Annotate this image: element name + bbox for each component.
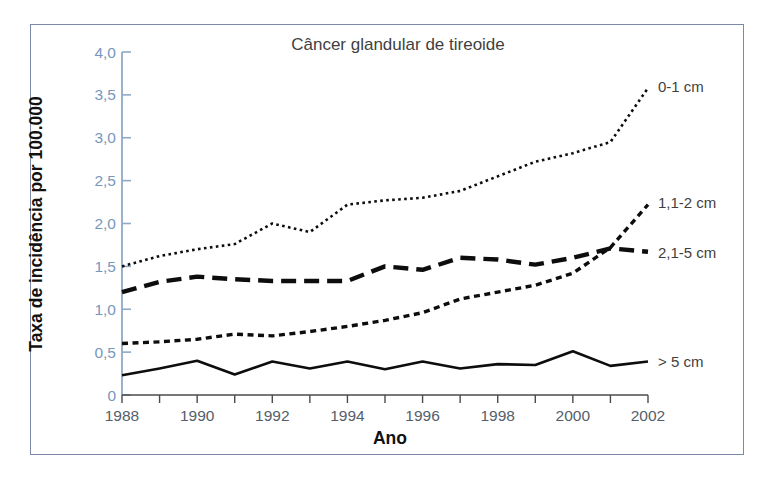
data-series-group [122, 88, 648, 375]
x-axis-tick-label: 1990 [180, 407, 215, 424]
x-axis-tick-label: 2002 [631, 407, 665, 424]
series-label-1: 0-1 cm [658, 78, 704, 95]
x-axis-tick-label: 1988 [105, 407, 139, 424]
x-axis-ticks [122, 395, 648, 403]
chart-canvas: Câncer glandular de tireoide Taxa de inc… [0, 0, 766, 483]
series-line-2 [122, 205, 648, 344]
y-axis-tick-label: 4,0 [94, 44, 116, 61]
series-line-1 [122, 88, 648, 266]
series-line-3 [122, 248, 648, 292]
y-axis-tick-label: 0 [107, 387, 116, 404]
x-axis-tick-label: 1992 [255, 407, 289, 424]
y-axis-tick-labels: 00,51,01,52,02,53,03,54,0 [94, 44, 116, 404]
y-axis-title: Taxa de incidência por 100.000 [26, 96, 46, 352]
x-axis-tick-labels: 19881990199219941996199820002002 [105, 407, 665, 424]
y-axis-tick-label: 1,0 [94, 301, 116, 318]
x-axis-tick-label: 1998 [480, 407, 514, 424]
series-label-4: > 5 cm [658, 353, 703, 370]
x-axis-tick-label: 1996 [405, 407, 439, 424]
chart-title: Câncer glandular de tireoide [291, 35, 505, 54]
series-labels-group: 0-1 cm1,1-2 cm2,1-5 cm> 5 cm [658, 78, 716, 370]
chart-svg: Câncer glandular de tireoide Taxa de inc… [0, 0, 766, 483]
y-axis-tick-label: 3,0 [94, 129, 116, 146]
y-axis-tick-label: 1,5 [94, 258, 116, 275]
y-axis-tick-label: 2,5 [94, 172, 116, 189]
x-axis-tick-label: 2000 [556, 407, 591, 424]
series-label-3: 2,1-5 cm [658, 244, 716, 261]
series-label-2: 1,1-2 cm [658, 194, 716, 211]
y-axis-tick-label: 0,5 [94, 344, 116, 361]
x-axis-title: Ano [373, 428, 407, 448]
y-axis-tick-label: 2,0 [94, 215, 116, 232]
y-axis-tick-label: 3,5 [94, 86, 116, 103]
x-axis-tick-label: 1994 [330, 407, 365, 424]
series-line-4 [122, 351, 648, 375]
